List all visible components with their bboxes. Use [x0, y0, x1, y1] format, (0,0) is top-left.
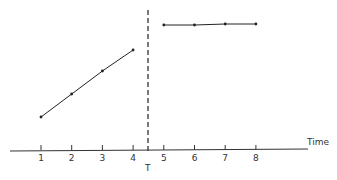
x-tick-label: 3	[100, 153, 106, 163]
x-tick-label: 1	[38, 153, 44, 163]
threshold-label: T	[144, 163, 151, 173]
x-axis	[10, 149, 308, 151]
series-line	[164, 24, 256, 25]
x-axis-tick-labels: 12345678	[38, 153, 259, 163]
data-point	[193, 24, 196, 27]
series-line	[41, 50, 133, 117]
data-point	[224, 23, 227, 26]
data-point	[101, 70, 104, 73]
data-point	[162, 24, 165, 27]
data-point	[40, 116, 43, 119]
x-tick-label: 5	[161, 153, 167, 163]
x-tick-label: 2	[69, 153, 75, 163]
data-point	[255, 23, 258, 26]
x-axis-title: Time	[306, 137, 329, 147]
x-tick-label: 4	[130, 153, 136, 163]
interrupted-time-series-chart: 12345678 Time T	[0, 0, 337, 180]
data-point	[132, 49, 135, 52]
x-tick-label: 8	[253, 153, 259, 163]
x-tick-label: 7	[222, 153, 228, 163]
data-point	[70, 93, 73, 96]
x-tick-label: 6	[192, 153, 198, 163]
